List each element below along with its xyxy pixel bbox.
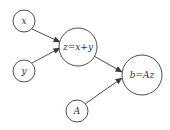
node-x: x [13, 10, 35, 32]
node-y-label: y [20, 66, 27, 76]
node-x-label: x [21, 16, 26, 26]
node-y: y [13, 60, 35, 82]
edge-A-to-b [85, 78, 122, 104]
node-z-label: z=x+y [62, 42, 94, 52]
node-z: z=x+y [59, 28, 97, 66]
computational-graph: x y z=x+y A b=Az [0, 0, 170, 130]
node-b: b=Az [122, 55, 162, 95]
node-A: A [66, 100, 88, 122]
node-A-label: A [73, 106, 81, 116]
edge-x-to-z [32, 29, 60, 42]
edge-z-to-b [94, 56, 122, 72]
edge-y-to-z [32, 48, 60, 63]
node-b-label: b=Az [130, 70, 155, 80]
